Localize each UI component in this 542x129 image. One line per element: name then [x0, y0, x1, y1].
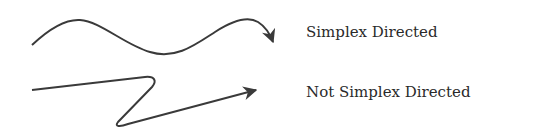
simplex-directed-curve [32, 19, 273, 54]
simplex-directed-label: Simplex Directed [306, 23, 438, 41]
curves-canvas [0, 0, 542, 129]
not-simplex-directed-label: Not Simplex Directed [306, 83, 471, 101]
not-simplex-directed-curve [32, 77, 256, 126]
